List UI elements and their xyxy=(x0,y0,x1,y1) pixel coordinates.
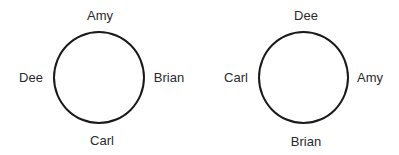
label-left: Dee xyxy=(19,70,43,85)
label-right: Brian xyxy=(154,70,184,85)
round-table-circle xyxy=(53,31,145,124)
label-right: Amy xyxy=(357,70,383,85)
label-top: Dee xyxy=(294,8,318,23)
label-top: Amy xyxy=(87,8,113,23)
label-bottom: Carl xyxy=(90,133,114,148)
round-table-circle xyxy=(258,31,349,124)
label-bottom: Brian xyxy=(291,134,321,149)
label-left: Carl xyxy=(224,70,248,85)
